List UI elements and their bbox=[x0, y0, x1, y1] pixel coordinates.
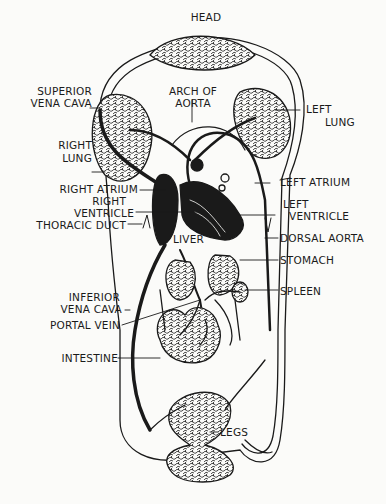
label-intestine: INTESTINE bbox=[30, 353, 118, 364]
label-superior-vena-cava-2: VENA CAVA bbox=[20, 98, 92, 109]
label-right-lung-1: RIGHT bbox=[40, 140, 92, 151]
label-right-ventricle-1: RIGHT bbox=[40, 196, 126, 207]
label-inferior-vena-cava-2: VENA CAVA bbox=[30, 304, 122, 315]
circulatory-diagram: HEAD SUPERIOR VENA CAVA ARCH OF AORTA LE… bbox=[0, 0, 386, 504]
label-left-lung-2: LUNG bbox=[325, 117, 355, 128]
stomach-capillary-bed bbox=[166, 260, 195, 300]
label-left-ventricle-2: VENTRICLE bbox=[289, 211, 349, 222]
label-spleen: SPLEEN bbox=[280, 286, 321, 297]
label-left-atrium: LEFT ATRIUM bbox=[280, 177, 350, 188]
label-right-lung-2: LUNG bbox=[40, 153, 92, 164]
head-capillary-bed bbox=[150, 36, 255, 70]
label-left-ventricle-1: LEFT bbox=[283, 199, 309, 210]
label-arch-of-aorta-1: ARCH OF bbox=[160, 86, 226, 97]
diagram-artwork bbox=[0, 0, 386, 504]
right-lung-capillary-bed bbox=[92, 94, 152, 181]
label-superior-vena-cava-1: SUPERIOR bbox=[20, 86, 92, 97]
label-left-lung-1: LEFT bbox=[306, 104, 332, 115]
label-legs: LEGS bbox=[220, 427, 248, 438]
label-thoracic-duct: THORACIC DUCT bbox=[6, 220, 126, 231]
label-stomach: STOMACH bbox=[280, 255, 334, 266]
label-arch-of-aorta-2: AORTA bbox=[160, 98, 226, 109]
label-portal-vein: PORTAL VEIN bbox=[20, 320, 120, 331]
label-dorsal-aorta: DORSAL AORTA bbox=[280, 233, 364, 244]
aortic-valve bbox=[191, 159, 203, 171]
label-head: HEAD bbox=[180, 12, 232, 23]
label-right-atrium: RIGHT ATRIUM bbox=[20, 184, 138, 195]
label-liver: LIVER bbox=[173, 234, 204, 245]
intestine-capillary-bed bbox=[157, 308, 220, 363]
heart-ventricles bbox=[180, 182, 243, 240]
label-right-ventricle-2: VENTRICLE bbox=[40, 208, 134, 219]
label-inferior-vena-cava-1: INFERIOR bbox=[30, 292, 120, 303]
